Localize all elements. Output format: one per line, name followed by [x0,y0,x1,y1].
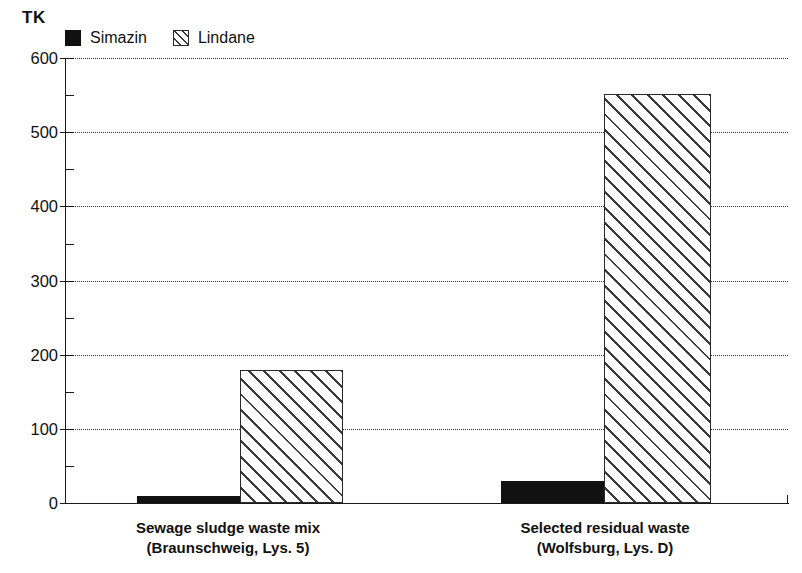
y-tick-150 [66,392,74,393]
y-tick-label-300: 300 [12,272,58,291]
x-axis-line [65,503,789,504]
y-tick-label-600: 600 [12,49,58,68]
y-tick-350 [66,244,74,245]
y-tick-100 [60,429,74,430]
bar-simazin-sewage-sludge [137,496,240,503]
y-tick-450 [66,169,74,170]
y-tick-300 [60,281,74,282]
plot-area [65,58,788,503]
y-tick-label-100: 100 [12,420,58,439]
y-axis-tick-labels: 600 500 400 300 200 100 0 [8,0,58,573]
y-tick-label-200: 200 [12,346,58,365]
y-tick-500 [60,132,74,133]
y-tick-50 [66,466,74,467]
bar-lindane-sewage-sludge [240,370,343,504]
y-tick-250 [66,318,74,319]
y-tick-label-400: 400 [12,197,58,216]
y-tick-label-0: 0 [12,494,58,513]
gridline-600 [65,58,788,59]
x-category-label-residual-waste: Selected residual waste (Wolfsburg, Lys.… [485,518,725,559]
y-tick-550 [66,95,74,96]
y-tick-400 [60,206,74,207]
x-category-label-sewage-sludge-line1: Sewage sludge waste mix [136,519,320,536]
x-category-label-sewage-sludge-line2: (Braunschweig, Lys. 5) [103,538,353,558]
y-axis-line [65,58,66,504]
legend: Simazin Lindane [65,29,255,47]
legend-swatch-simazin-icon [65,30,81,46]
legend-item-simazin: Simazin [65,29,147,47]
y-tick-600 [60,58,74,59]
bar-chart: TK 600 500 400 300 200 100 0 [0,0,802,573]
legend-label-simazin: Simazin [90,29,147,47]
x-axis-end-tick [787,495,788,504]
y-tick-200 [60,355,74,356]
legend-swatch-lindane-icon [173,30,189,46]
x-category-label-residual-waste-line1: Selected residual waste [520,519,689,536]
legend-label-lindane: Lindane [198,29,255,47]
x-category-label-residual-waste-line2: (Wolfsburg, Lys. D) [485,538,725,558]
x-category-label-sewage-sludge: Sewage sludge waste mix (Braunschweig, L… [103,518,353,559]
bar-simazin-residual-waste [501,481,604,503]
bar-lindane-residual-waste [604,94,711,503]
y-tick-label-500: 500 [12,123,58,142]
legend-item-lindane: Lindane [173,29,255,47]
